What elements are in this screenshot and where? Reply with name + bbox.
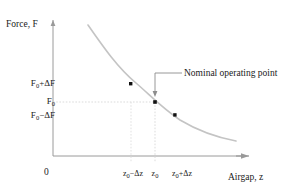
x-tick-mid-subscript: 0 bbox=[155, 172, 158, 179]
y-tick-lo-suffix: −ΔF bbox=[39, 110, 55, 120]
nominal-operating-point-annotation: Nominal operating point bbox=[184, 69, 277, 79]
x-tick-label-z0-plus-dz: z0+Δz bbox=[160, 170, 204, 178]
leader-arrow-icon bbox=[153, 91, 158, 97]
y-axis-arrow-icon bbox=[51, 20, 56, 26]
data-point-lower bbox=[173, 113, 176, 116]
x-tick-hi-base: z bbox=[172, 169, 176, 178]
x-axis-title: Airgap, z bbox=[228, 173, 263, 183]
y-tick-label-f0-plus-df: F0+ΔF bbox=[31, 79, 55, 88]
x-tick-lo-subscript: 0 bbox=[127, 172, 130, 179]
y-tick-label-f0: F0 bbox=[47, 97, 55, 106]
x-tick-lo-base: z bbox=[123, 169, 127, 178]
figure-canvas: Force, F F0+ΔF F0 F0−ΔF z0−Δz z0 z0+Δz A… bbox=[0, 0, 298, 196]
y-tick-hi-suffix: +ΔF bbox=[39, 78, 55, 88]
x-tick-hi-subscript: 0 bbox=[176, 172, 179, 179]
x-tick-hi-suffix: +Δz bbox=[179, 169, 192, 178]
annotation-leader-group bbox=[153, 73, 182, 97]
data-point-operating bbox=[153, 100, 157, 104]
x-tick-lo-suffix: −Δz bbox=[130, 169, 143, 178]
axes-group bbox=[51, 20, 249, 159]
y-tick-hi-subscript: 0 bbox=[36, 82, 39, 89]
y-axis-title: Force, F bbox=[6, 20, 38, 30]
force-curve bbox=[88, 25, 236, 141]
guide-lines-group bbox=[53, 102, 155, 162]
y-tick-lo-subscript: 0 bbox=[36, 114, 39, 121]
origin-label: 0 bbox=[44, 168, 49, 178]
y-tick-label-f0-minus-df: F0−ΔF bbox=[31, 111, 55, 120]
y-tick-mid-subscript: 0 bbox=[52, 100, 55, 107]
y-tick-mid-base: F bbox=[47, 96, 52, 106]
data-point-upper bbox=[129, 82, 132, 85]
